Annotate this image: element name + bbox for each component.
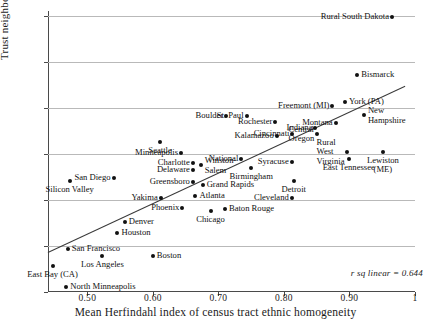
data-point-label: NewHampshire — [368, 106, 406, 125]
data-point — [191, 168, 195, 172]
gridline — [48, 62, 415, 63]
y-tick-mark — [44, 200, 48, 201]
data-point — [343, 100, 347, 104]
data-point — [68, 179, 72, 183]
x-tick-label: 1 — [412, 293, 417, 303]
scatter-plot-figure: Trust neighbours 'a lot', % 203040506070… — [0, 0, 431, 328]
data-point — [159, 196, 163, 200]
data-point-label: Denver — [129, 218, 154, 227]
data-point — [191, 180, 195, 184]
data-point-label: Delaware — [157, 166, 190, 175]
y-axis-label: Trust neighbours 'a lot', % — [0, 0, 10, 60]
data-point — [290, 132, 294, 136]
data-point-label: Yakima — [131, 193, 157, 202]
data-point — [292, 179, 296, 183]
data-point — [66, 247, 70, 251]
data-point-label: Phoenix — [151, 203, 179, 212]
data-point-label: Freemont (MI) — [278, 101, 329, 110]
x-tick-label: 0.50 — [78, 293, 96, 303]
data-point — [64, 285, 68, 289]
data-point-label: North Minneapolis — [70, 282, 135, 291]
x-tick-label: 0.60 — [144, 293, 162, 303]
data-point — [112, 176, 116, 180]
data-point — [381, 150, 385, 154]
data-point-label: East Bay (CA) — [27, 270, 78, 279]
data-point-label: Bismarck — [361, 70, 394, 79]
data-point-label: Greensboro — [150, 177, 190, 186]
data-point — [201, 183, 205, 187]
data-point — [390, 15, 394, 19]
data-point — [180, 206, 184, 210]
plot-area: 20304050607080 0.500.600.700.800.901 Rur… — [48, 11, 415, 292]
data-point — [290, 196, 294, 200]
data-point-label: Los Angeles — [81, 260, 124, 269]
data-point — [315, 132, 319, 136]
y-tick-mark — [44, 16, 48, 17]
data-point-label: Cincinnati — [254, 130, 290, 139]
data-point-label: San Francisco — [72, 244, 120, 253]
data-point-label: Chicago — [196, 215, 225, 224]
data-point — [224, 114, 228, 118]
x-axis-label: Mean Herfindahl index of census tract et… — [0, 306, 431, 318]
data-point — [209, 209, 213, 213]
data-point-label: Silicon Valley — [45, 185, 93, 194]
data-point — [151, 254, 155, 258]
y-tick-mark — [44, 246, 48, 247]
data-point — [290, 160, 294, 164]
data-point — [273, 120, 277, 124]
data-point — [100, 254, 104, 258]
data-point — [223, 207, 227, 211]
data-point — [362, 113, 366, 117]
data-point — [199, 163, 203, 167]
data-point-label: East Tennessee — [323, 163, 375, 172]
data-point — [179, 151, 183, 155]
data-point — [158, 140, 162, 144]
data-point-label: Boulder — [196, 111, 224, 120]
y-tick-mark — [44, 292, 48, 293]
y-tick-mark — [44, 62, 48, 63]
data-point-label: Atlanta — [199, 191, 224, 200]
data-point-label: Cleveland — [254, 194, 289, 203]
data-point-label: Syracuse — [258, 157, 289, 166]
data-point — [193, 194, 197, 198]
x-tick-label: 0.90 — [341, 293, 359, 303]
data-point-label: Rochester — [238, 118, 272, 127]
data-point — [334, 121, 338, 125]
data-point-label: Boston — [157, 251, 181, 260]
data-point — [330, 104, 334, 108]
gridline — [48, 200, 415, 201]
y-axis-line — [48, 11, 49, 292]
data-point — [123, 220, 127, 224]
data-point — [347, 157, 351, 161]
data-point-label: Baton Rouge — [229, 204, 274, 213]
y-tick-mark — [44, 108, 48, 109]
data-point-label: San Diego — [74, 174, 110, 183]
data-point-label: Rural South Dakota — [321, 12, 389, 21]
data-point — [345, 150, 349, 154]
data-point — [115, 231, 119, 235]
data-point — [249, 166, 253, 170]
r-squared-annotation: r sq linear = 0.644 — [351, 268, 423, 278]
x-tick-label: 0.80 — [275, 293, 293, 303]
x-tick-label: 0.70 — [209, 293, 227, 303]
data-point — [239, 157, 243, 161]
y-tick-mark — [44, 154, 48, 155]
data-point — [355, 73, 359, 77]
data-point — [51, 264, 55, 268]
data-point-label: Houston — [121, 229, 150, 238]
data-point-label: Grand Rapids — [207, 180, 255, 189]
data-point — [191, 161, 195, 165]
